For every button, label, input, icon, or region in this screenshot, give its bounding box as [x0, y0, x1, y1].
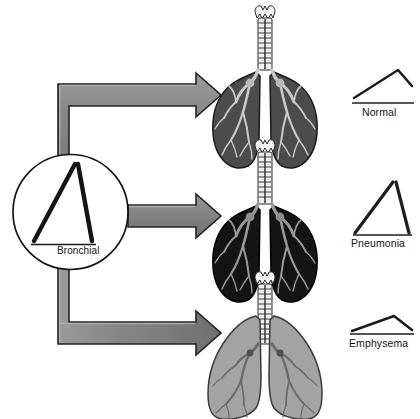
waveform-normal-icon [352, 70, 414, 103]
pneumonia-label: Pneumonia [351, 237, 405, 249]
bronchial-label: Bronchial [57, 245, 100, 256]
normal-label: Normal [362, 106, 396, 118]
emphysema-label: Emphysema [349, 337, 408, 349]
diagram-canvas: Bronchial Normal Pneumonia Emphysema [0, 0, 420, 419]
waveforms-layer [0, 0, 420, 419]
waveform-pneumonia-icon [353, 182, 412, 235]
waveform-emphysema-icon [350, 316, 414, 334]
